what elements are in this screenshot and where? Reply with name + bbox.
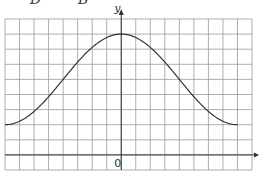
y-axis-label: y xyxy=(113,2,121,15)
origin-label: 0 xyxy=(114,157,121,170)
grid xyxy=(5,19,252,170)
function-graph: y 0 xyxy=(0,0,259,172)
axes xyxy=(5,9,259,170)
